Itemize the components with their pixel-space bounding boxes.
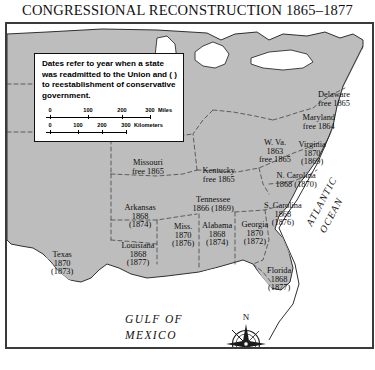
state-label-missouri: Missourifree 1865	[132, 159, 164, 176]
state-label-texas: Texas1870(1873)	[51, 251, 73, 277]
miles-bar	[46, 115, 173, 119]
km-tick-3: 300	[121, 122, 130, 128]
state-label-line: free 1865	[318, 100, 350, 109]
legend-note: Dates refer to year when a state was rea…	[42, 59, 177, 102]
state-label-florida: Florida1868(1877)	[267, 267, 291, 293]
km-tick-1: 100	[73, 122, 82, 128]
scale-km-numbers: 0 100 200 300 Kilometers	[46, 122, 173, 129]
state-label-line: 1866 (1869)	[193, 205, 234, 214]
state-label-line: free 1865	[259, 156, 291, 165]
state-label-line: (1869)	[299, 158, 326, 167]
km-tick-2: 200	[97, 122, 106, 128]
gulf-of-mexico-label: GULF OF MEXICO	[125, 312, 183, 343]
map-frame: GULF OF MEXICO ATLANTIC OCEAN N	[5, 22, 374, 349]
km-unit: Kilometers	[134, 122, 163, 128]
state-label-line: (1876)	[264, 219, 302, 228]
state-label-line: (1877)	[267, 284, 291, 293]
scale-miles: 0 100 200 300 Miles	[46, 107, 173, 122]
state-label-virginia: Virginia1870(1869)	[299, 141, 326, 167]
gulf-line-2: MEXICO	[125, 328, 183, 344]
state-label-line: free 1865	[203, 176, 236, 185]
compass-north-label: N	[225, 312, 267, 322]
state-label-line: (1874)	[202, 239, 232, 248]
miles-unit: Miles	[158, 107, 172, 113]
state-label-line: (1877)	[122, 259, 155, 268]
miles-tick-1: 100	[83, 107, 92, 113]
state-label-delaware: Delawarefree 1865	[318, 91, 350, 108]
state-label-line: free 1865	[132, 168, 164, 177]
state-label-tennessee: Tennessee1866 (1869)	[193, 196, 234, 213]
miles-tick-3: 300	[145, 107, 154, 113]
compass-rose: N	[225, 312, 267, 349]
scale-miles-numbers: 0 100 200 300 Miles	[46, 107, 173, 114]
state-label-louisiana: Louisiana1868(1877)	[122, 242, 155, 268]
compass-star-icon	[225, 323, 267, 349]
miles-tick-2: 200	[117, 107, 126, 113]
state-label-south-carolina: S. Carolina1868(1876)	[264, 202, 302, 228]
map-legend: Dates refer to year when a state was rea…	[34, 53, 184, 142]
km-tick-0: 0	[48, 122, 51, 128]
state-label-kentucky: Kentuckyfree 1865	[203, 167, 236, 184]
state-label-maryland: Marylandfree 1864	[303, 114, 336, 131]
state-label-alabama: Alabama1868(1874)	[202, 222, 232, 248]
page-title: CONGRESSIONAL RECONSTRUCTION 1865–1877	[0, 2, 375, 19]
scale-bars: 0 100 200 300 Miles	[42, 107, 177, 137]
scale-kilometers: 0 100 200 300 Kilometers	[46, 122, 173, 137]
miles-tick-0: 0	[48, 107, 51, 113]
state-label-north-carolina: N. Carolina1868 (1870)	[276, 172, 317, 189]
state-label-west-virginia: W. Va.1863free 1865	[259, 139, 291, 165]
state-label-arkansas: Arkansas1868(1874)	[125, 204, 156, 230]
state-label-line: (1874)	[125, 221, 156, 230]
gulf-line-1: GULF OF	[125, 312, 183, 328]
state-label-line: free 1864	[303, 123, 336, 132]
map-page: CONGRESSIONAL RECONSTRUCTION 1865–1877	[0, 0, 375, 370]
state-label-line: 1868 (1870)	[276, 181, 317, 190]
km-bar	[46, 130, 173, 134]
state-label-line: (1876)	[172, 240, 194, 249]
state-label-line: (1872)	[242, 238, 269, 247]
state-label-mississippi: Miss.1870(1876)	[172, 223, 194, 249]
state-label-line: (1873)	[51, 268, 73, 277]
